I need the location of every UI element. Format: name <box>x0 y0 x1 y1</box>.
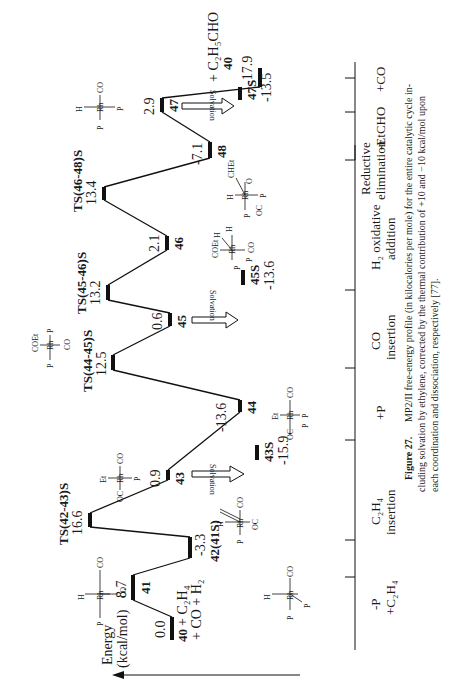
svg-text:OC: OC <box>116 491 125 502</box>
svg-text:CO: CO <box>236 497 245 508</box>
label-48: 48 <box>214 145 229 159</box>
label-ts4445: TS(44-45)S <box>80 330 95 392</box>
label-40-extra1: + C₂H₄ <box>175 585 190 626</box>
svg-text:Rh: Rh <box>236 519 245 528</box>
svg-text:P: P <box>116 106 125 111</box>
value-ts4648: 13.4 <box>84 181 99 206</box>
rotated-figure: Energy (kcal/mol) <box>0 0 452 690</box>
stage-4: CO <box>368 332 383 350</box>
value-47: 2.9 <box>142 98 157 116</box>
svg-text:CO: CO <box>96 82 105 93</box>
svg-text:P: P <box>96 125 105 130</box>
svg-text:Rh: Rh <box>96 103 105 112</box>
label-45: 45 <box>174 315 189 329</box>
svg-text:H: H <box>77 594 86 600</box>
svg-text:Et: Et <box>271 412 280 420</box>
value-ts4445: 12.5 <box>94 352 109 377</box>
svg-text:CHEt: CHEt <box>227 159 236 178</box>
stage-2: C₂H₄ <box>368 497 383 525</box>
stage-3: +P <box>373 405 388 420</box>
caption-line3: each coordination and dissociation, resp… <box>429 278 440 492</box>
solvation-label-47: Solvation <box>208 90 217 121</box>
label-43: 43 <box>172 472 187 486</box>
svg-text:Rh: Rh <box>228 245 237 254</box>
stage-1b: +C₂H₄ <box>383 580 398 615</box>
label-40: 40 <box>175 629 190 642</box>
svg-text:CO: CO <box>247 242 256 253</box>
svg-text:Rh: Rh <box>286 411 295 420</box>
value-47S: -13.5 <box>259 73 274 102</box>
value-45S: -13.6 <box>262 261 277 290</box>
svg-text:P: P <box>133 476 142 481</box>
svg-text:H: H <box>263 594 272 600</box>
caption-line1: MP2/II free-energy profile (in kilocalor… <box>403 84 415 422</box>
svg-text:P: P <box>46 328 55 333</box>
svg-text:H: H <box>226 194 235 200</box>
axis-label-energy: Energy <box>100 625 115 665</box>
svg-text:OC: OC <box>286 429 295 440</box>
svg-text:P: P <box>96 621 105 626</box>
value-44: -13.6 <box>214 403 229 432</box>
level-labels: 0.0 40 + C₂H₄ + CO + H₂ 8.7 41 -3.3 42(4… <box>56 12 291 642</box>
stage-1: -P <box>368 598 383 610</box>
axis-label-units: (kcal/mol) <box>115 609 131 668</box>
label-46: 46 <box>171 237 186 251</box>
svg-text:P: P <box>301 423 310 428</box>
svg-text:COEt: COEt <box>211 239 220 258</box>
stage-2b: insertion <box>383 489 398 535</box>
svg-text:CO: CO <box>286 566 295 577</box>
value-ts4546: 13.2 <box>88 281 103 306</box>
solvation-label-45: Solvation <box>208 290 217 321</box>
arrow-up-icon <box>112 671 124 679</box>
value-45: 0.6 <box>150 313 165 331</box>
svg-text:H: H <box>75 106 84 112</box>
stage-5: H₂ oxidative <box>368 204 383 270</box>
solvation-arrow-43: Solvation <box>192 464 244 495</box>
caption: Figure 27. MP2/II free-energy profile (i… <box>403 84 440 492</box>
energy-profile-diagram: Energy (kcal/mol) <box>0 0 452 690</box>
caption-line2: cluding solvation by ethylene, corrected… <box>416 96 427 492</box>
svg-text:P: P <box>236 539 245 544</box>
solvation-label-43: Solvation <box>208 464 217 495</box>
label-47: 47 <box>166 99 181 113</box>
svg-text:P: P <box>243 213 252 218</box>
label-ts4546: TS(45-46)S <box>74 252 89 314</box>
svg-text:Rh: Rh <box>46 341 55 350</box>
svg-text:OC: OC <box>255 205 264 216</box>
svg-text:P: P <box>301 413 310 418</box>
stage-7: -EtCHO <box>373 107 388 150</box>
label-40-final: 40 <box>220 57 235 70</box>
svg-text:CO: CO <box>96 557 105 568</box>
stage-5b: addition <box>383 217 398 260</box>
svg-text:COEt: COEt <box>31 333 40 352</box>
svg-text:H: H <box>213 232 222 238</box>
svg-text:P: P <box>286 615 295 620</box>
hollow-arrow-icon <box>182 98 234 114</box>
hollow-arrow-icon <box>192 466 244 482</box>
stage-axis: -P +C₂H₄ C₂H₄ insertion +P CO insertion … <box>345 62 398 650</box>
svg-text:Et: Et <box>99 475 108 483</box>
value-40-final: -17.9 <box>240 56 255 85</box>
label-43S: 43S <box>261 442 276 462</box>
svg-text:P: P <box>46 363 55 368</box>
svg-text:Rh: Rh <box>96 591 105 600</box>
label-40-extra2: + CO + H₂ <box>189 579 204 640</box>
label-45S: 45S <box>247 265 262 285</box>
svg-text:P: P <box>245 257 254 262</box>
svg-text:P: P <box>303 603 312 608</box>
value-43: 0.9 <box>148 470 163 488</box>
svg-text:CO: CO <box>63 339 72 350</box>
label-44: 44 <box>244 401 259 415</box>
value-40: 0.0 <box>153 621 168 639</box>
svg-text:Rh: Rh <box>116 474 125 483</box>
value-48: -7.1 <box>190 143 205 165</box>
svg-text:Rh: Rh <box>241 191 250 200</box>
stage-8: +CO <box>373 67 388 92</box>
label-40-final-extra: + C₂H₅CHO <box>206 12 221 82</box>
svg-text:P: P <box>233 265 242 270</box>
svg-text:OC: OC <box>251 519 260 530</box>
value-43S: -15.9 <box>276 436 291 465</box>
stage-6: Reductive <box>358 142 373 195</box>
value-ts4243: 16.6 <box>70 511 85 536</box>
svg-text:CO: CO <box>119 587 128 598</box>
